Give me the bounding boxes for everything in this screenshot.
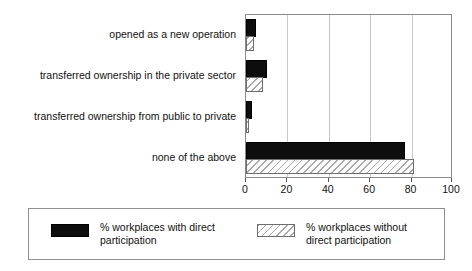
bar-with-direct-participation [246, 60, 267, 78]
bar-group-opened-as-a-new-operation [246, 15, 451, 56]
legend-entry-without-direct-participation: % workplaces without direct participatio… [257, 221, 407, 246]
plot-region: opened as a new operation transferred ow… [0, 0, 472, 196]
legend-label-without-direct-participation: % workplaces without direct participatio… [306, 221, 407, 246]
x-tick-0 [245, 178, 246, 182]
bar-chart-figure: opened as a new operation transferred ow… [0, 0, 472, 271]
bar-without-direct-participation [246, 36, 254, 51]
category-label-transferred-ownership-private-sector: transferred ownership in the private sec… [40, 55, 236, 96]
category-label-none-of-the-above: none of the above [152, 137, 236, 178]
bar-group-transferred-ownership-private-sector [246, 56, 451, 97]
category-label-transferred-ownership-public-private: transferred ownership from public to pri… [34, 96, 236, 137]
legend-label-with-direct-participation: % workplaces with direct participation [100, 221, 215, 246]
legend-entry-with-direct-participation: % workplaces with direct participation [51, 221, 215, 246]
x-tick-100 [451, 178, 452, 182]
x-tick-label-20: 20 [281, 183, 293, 195]
bar-group-transferred-ownership-public-private [246, 97, 451, 138]
bar-with-direct-participation [246, 142, 405, 160]
bar-without-direct-participation [246, 77, 263, 92]
x-tick-80 [411, 178, 412, 182]
x-tick-60 [369, 178, 370, 182]
x-tick-label-0: 0 [242, 183, 248, 195]
bar-group-none-of-the-above [246, 138, 451, 179]
x-tick-label-60: 60 [363, 183, 375, 195]
bar-without-direct-participation [246, 118, 249, 133]
x-tick-label-100: 100 [442, 183, 460, 195]
bar-without-direct-participation [246, 159, 414, 174]
x-tick-40 [328, 178, 329, 182]
x-tick-20 [286, 178, 287, 182]
plot-area [245, 14, 452, 178]
category-axis-labels: opened as a new operation transferred ow… [0, 14, 241, 178]
category-label-opened-as-a-new-operation: opened as a new operation [109, 14, 236, 55]
legend: % workplaces with direct participation %… [28, 208, 445, 260]
x-tick-label-40: 40 [322, 183, 334, 195]
x-tick-label-80: 80 [405, 183, 417, 195]
x-axis: 0 20 40 60 80 100 [245, 178, 452, 196]
solid-black-swatch-icon [51, 224, 89, 237]
hatched-gray-swatch-icon [257, 224, 295, 237]
bar-with-direct-participation [246, 19, 256, 37]
bar-with-direct-participation [246, 101, 252, 119]
